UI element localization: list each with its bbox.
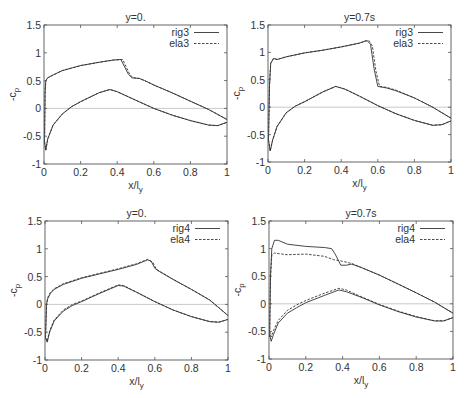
panel-top-left: 00.20.40.60.81-1-0.500.511.5y=0.x/ly-cpr… [6, 11, 230, 194]
panel-top-right: 00.20.40.60.81-1-0.500.511.5y=0.7sx/ly-c… [230, 11, 454, 192]
x-tick-label: 0.2 [297, 164, 312, 176]
plot-frame [268, 25, 451, 162]
x-tick-label: 0 [41, 166, 47, 178]
plot-frame [269, 221, 453, 359]
y-tick-label: 0 [36, 298, 42, 310]
y-tick-label: -1 [257, 353, 266, 365]
x-tick-label: 0.4 [111, 362, 126, 374]
x-tick-label: 0 [42, 362, 48, 374]
y-tick-label: 0 [259, 101, 265, 113]
x-tick-label: 0.4 [335, 361, 350, 373]
y-tick-label: -0.5 [247, 129, 265, 141]
y-tick-label: 1.5 [251, 215, 266, 227]
ela4-lower-curve [46, 285, 229, 341]
y-tick-label: -1 [32, 158, 41, 170]
x-tick-label: 0.6 [370, 164, 385, 176]
rig4-upper-curve [46, 260, 229, 338]
rig4-lower-curve [46, 286, 229, 343]
x-tick-label: 0.8 [407, 164, 422, 176]
rig4-upper-curve [270, 240, 453, 337]
y-tick-label: 0.5 [251, 270, 266, 282]
x-tick-label: 0.4 [334, 164, 349, 176]
ela4-lower-curve [270, 288, 453, 337]
y-tick-label: 1 [36, 243, 42, 255]
y-tick-label: -1 [256, 156, 265, 168]
panel-title: y=0.7s [344, 11, 375, 23]
y-axis-label: -cp [6, 87, 21, 101]
x-tick-label: 0.6 [147, 362, 162, 374]
y-tick-label: -0.5 [23, 130, 41, 142]
x-tick-label: 1 [225, 362, 231, 374]
ela4-upper-curve [270, 253, 453, 337]
panel-bottom-right: 00.20.40.60.81-1-0.500.511.5y=0.7sx/ly-c… [231, 207, 456, 389]
figure-canvas: 00.20.40.60.81-1-0.500.511.5y=0.x/ly-cpr… [0, 0, 468, 398]
x-axis-label: x/ly [354, 374, 369, 389]
x-tick-label: 0.8 [184, 362, 199, 374]
x-tick-label: 1 [224, 166, 230, 178]
ela4-upper-curve [46, 259, 229, 337]
x-tick-label: 0 [265, 164, 271, 176]
x-tick-label: 1 [448, 164, 454, 176]
y-tick-label: -0.5 [24, 326, 42, 338]
x-axis-label: x/ly [128, 179, 143, 194]
panel-title: y=0.7s [345, 207, 376, 219]
x-tick-label: 0.6 [146, 166, 161, 178]
y-tick-label: 1.5 [26, 19, 41, 31]
y-tick-label: 0.5 [250, 74, 265, 86]
y-tick-label: 1 [259, 46, 265, 58]
panel-title: y=0. [125, 11, 145, 23]
y-tick-label: 1 [260, 243, 266, 255]
y-axis-label: -cp [7, 283, 22, 297]
x-axis-label: x/ly [352, 177, 367, 192]
x-tick-label: 0.6 [372, 361, 387, 373]
x-tick-label: 0.8 [183, 166, 198, 178]
y-tick-label: 1.5 [27, 215, 42, 227]
x-tick-label: 0.2 [298, 361, 313, 373]
plot-frame [45, 221, 228, 360]
legend-label: ela3 [169, 37, 189, 49]
rig3-upper-curve [269, 40, 452, 140]
ela3-lower-curve [45, 90, 228, 151]
x-tick-label: 0.2 [73, 166, 88, 178]
x-tick-label: 0.8 [409, 361, 424, 373]
y-tick-label: 0 [260, 298, 266, 310]
x-tick-label: 0.4 [110, 166, 125, 178]
legend-label: ela4 [170, 233, 190, 245]
y-tick-label: 1 [35, 47, 41, 59]
panel-bottom-left: 00.20.40.60.81-1-0.500.511.5y=0.x/ly-cpr… [7, 207, 231, 390]
y-axis-label: -cp [231, 283, 246, 297]
y-tick-label: 0.5 [27, 271, 42, 283]
y-tick-label: 0.5 [26, 75, 41, 87]
panel-title: y=0. [126, 207, 146, 219]
x-tick-label: 0.2 [74, 362, 89, 374]
y-tick-label: 1.5 [250, 19, 265, 31]
x-axis-label: x/ly [129, 375, 144, 390]
ela3-upper-curve [269, 40, 452, 140]
plot-frame [44, 25, 227, 164]
x-tick-label: 0 [266, 361, 272, 373]
legend-label: ela3 [393, 37, 413, 49]
rig3-lower-curve [269, 86, 452, 151]
y-tick-label: -0.5 [248, 325, 266, 337]
y-tick-label: -1 [33, 354, 42, 366]
rig3-lower-curve [45, 90, 228, 151]
y-axis-label: -cp [230, 86, 245, 100]
legend-label: ela4 [395, 233, 415, 245]
x-tick-label: 1 [450, 361, 456, 373]
y-tick-label: 0 [35, 102, 41, 114]
